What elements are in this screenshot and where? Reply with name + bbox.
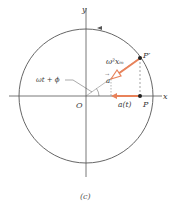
- p-prime-label: P′: [142, 51, 150, 60]
- y-axis-label: y: [81, 5, 87, 14]
- x-axis-label: x: [163, 92, 168, 101]
- projected-arrowhead-icon: [111, 93, 117, 99]
- accel-vector-overarrow-icon: →: [105, 71, 109, 77]
- figure-caption: (c): [80, 192, 91, 201]
- point-p: [138, 94, 142, 98]
- acceleration-arrowhead-icon: [111, 70, 121, 79]
- angle-pointer: [73, 80, 92, 92]
- projection-label: a(t): [118, 100, 131, 109]
- p-label: P: [142, 100, 149, 109]
- origin-label: O: [76, 101, 83, 110]
- rotation-direction-arrow-icon: [97, 26, 102, 30]
- accel-magnitude-label: ω²xₘ: [106, 57, 124, 66]
- shm-reference-circle-diagram: y x O P′ P ω²xₘ a → ωt + ϕ a(t) (c): [0, 0, 176, 210]
- point-p-prime: [138, 56, 142, 60]
- angle-label: ωt + ϕ: [36, 76, 60, 84]
- accel-vector-label: a: [106, 77, 110, 85]
- angle-arc: [97, 89, 100, 97]
